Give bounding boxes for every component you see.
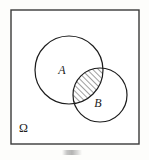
figure-canvas: A B Ω bbox=[0, 0, 149, 160]
venn-diagram: A B Ω bbox=[0, 0, 149, 160]
set-b-label: B bbox=[94, 96, 102, 110]
figure-caption bbox=[62, 150, 82, 155]
set-a-label: A bbox=[57, 63, 66, 77]
omega-label: Ω bbox=[19, 121, 28, 135]
